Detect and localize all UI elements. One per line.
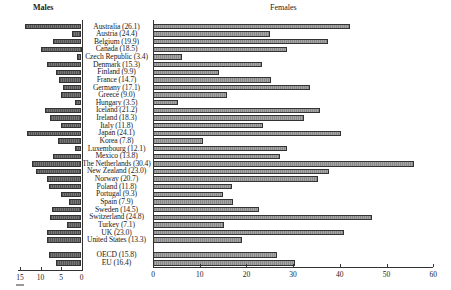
female-bar (153, 47, 287, 52)
female-bar (153, 154, 280, 159)
male-bar (27, 131, 82, 136)
female-bar (153, 199, 233, 204)
males-tick-label: 5 (51, 273, 71, 282)
female-bar (153, 131, 341, 136)
male-bar (47, 176, 81, 181)
male-bar (61, 192, 82, 197)
female-bar (153, 252, 277, 257)
male-bar (56, 70, 82, 75)
figure-caption-fragment (16, 284, 24, 286)
female-bar (153, 169, 329, 174)
females-x-axis (153, 267, 433, 268)
males-tick (20, 267, 21, 270)
male-bar (47, 237, 81, 242)
females-tick-label: 30 (283, 270, 303, 279)
females-tick-label: 50 (377, 270, 397, 279)
female-bar (153, 138, 203, 143)
female-bar (153, 77, 271, 82)
female-bar (153, 54, 182, 59)
male-bar (47, 230, 82, 235)
female-bar (153, 62, 262, 67)
males-baseline (82, 20, 83, 271)
male-bar (67, 222, 82, 227)
male-bar (36, 169, 82, 174)
male-bar (61, 92, 82, 97)
females-tick (340, 264, 341, 267)
females-tick (200, 264, 201, 267)
female-bar (153, 123, 263, 128)
male-bar (25, 24, 82, 29)
female-bar (153, 192, 223, 197)
female-bar (153, 39, 328, 44)
male-bar (53, 154, 82, 159)
males-tick-label: 0 (72, 273, 92, 282)
male-bar (63, 85, 82, 90)
female-bar (153, 260, 295, 265)
males-tick (41, 267, 42, 270)
female-bar (153, 31, 270, 36)
male-bar (58, 138, 82, 143)
female-bar (153, 70, 219, 75)
male-bar (49, 184, 82, 189)
males-tick-label: 10 (31, 273, 51, 282)
male-bar (75, 100, 82, 105)
females-tick (387, 264, 388, 267)
female-bar (153, 85, 310, 90)
males-tick (61, 267, 62, 270)
females-tick-label: 40 (330, 270, 350, 279)
males-panel-title: Males (33, 3, 53, 12)
male-bar (53, 39, 82, 44)
male-bar (49, 252, 82, 257)
females-tick-label: 0 (143, 270, 163, 279)
females-panel-title: Females (270, 3, 297, 12)
male-bar (72, 31, 81, 36)
female-bar (153, 184, 232, 189)
male-bar (41, 47, 82, 52)
female-bar (153, 108, 320, 113)
males-x-axis (18, 270, 82, 271)
female-bar (153, 207, 259, 212)
males-tick (82, 267, 83, 270)
female-bar (153, 100, 178, 105)
female-bar (153, 215, 372, 220)
females-tick (293, 264, 294, 267)
female-bar (153, 237, 242, 242)
male-bar (69, 199, 82, 204)
female-bar (153, 222, 224, 227)
female-bar (153, 230, 344, 235)
male-bar (52, 207, 82, 212)
female-bar (153, 92, 227, 97)
male-bar (32, 161, 81, 166)
female-bar (153, 115, 304, 120)
category-label: United States (13.3) (80, 236, 153, 244)
male-bar (50, 115, 82, 120)
male-bar (50, 215, 82, 220)
male-bar (45, 108, 82, 113)
females-tick (433, 264, 434, 267)
category-label: EU (16.4) (80, 259, 153, 267)
female-bar (153, 24, 350, 29)
female-bar (153, 176, 318, 181)
females-tick (246, 264, 247, 267)
male-bar (56, 260, 82, 265)
males-tick-label: 15 (10, 273, 30, 282)
females-tick-label: 60 (423, 270, 443, 279)
male-bar (61, 123, 82, 128)
male-bar (47, 62, 82, 67)
females-tick (153, 264, 154, 267)
females-baseline (153, 20, 154, 268)
female-bar (153, 146, 287, 151)
female-bar (153, 161, 414, 166)
male-bar (59, 77, 82, 82)
females-tick-label: 20 (236, 270, 256, 279)
females-tick-label: 10 (190, 270, 210, 279)
